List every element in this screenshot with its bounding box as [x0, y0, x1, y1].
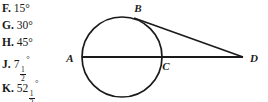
choice-value-g: 30°: [17, 20, 33, 32]
degree-symbol: °: [35, 78, 39, 88]
choice-value-f: 15°: [14, 3, 30, 15]
choice-letter-g: G.: [2, 20, 14, 32]
degree-symbol: °: [25, 2, 30, 14]
point-label-b: B: [133, 2, 141, 14]
question-figure-panel: F. 15° G. 30° H. 45° J. 712° K. 5212°: [0, 0, 268, 102]
segment-bd: [134, 18, 243, 57]
choice-value-h: 45°: [17, 37, 33, 49]
mixed-fraction-k: 12: [29, 90, 35, 102]
answer-choice-f[interactable]: F. 15°: [2, 3, 30, 15]
choice-value-j: 712°: [14, 56, 30, 80]
degree-symbol: °: [26, 54, 30, 64]
answer-choice-list: F. 15° G. 30° H. 45° J. 712° K. 5212°: [0, 0, 62, 102]
choice-letter-k: K.: [2, 83, 14, 95]
choice-letter-f: F.: [2, 3, 11, 15]
point-label-d: D: [249, 52, 258, 64]
answer-choice-h[interactable]: H. 45°: [2, 37, 33, 49]
choice-value-k: 5212°: [17, 80, 39, 102]
degree-symbol: °: [28, 36, 33, 48]
answer-choice-k[interactable]: K. 5212°: [2, 80, 39, 102]
choice-letter-j: J.: [2, 59, 11, 71]
degree-symbol: °: [28, 19, 33, 31]
answer-choice-g[interactable]: G. 30°: [2, 20, 33, 32]
answer-choice-j[interactable]: J. 712°: [2, 56, 30, 80]
geometry-diagram: A B C D: [62, 0, 268, 102]
point-label-c: C: [162, 60, 170, 72]
choice-letter-h: H.: [2, 37, 14, 49]
point-label-a: A: [65, 52, 73, 64]
